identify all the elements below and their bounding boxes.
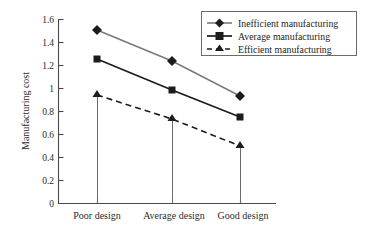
data-point-marker bbox=[169, 87, 176, 94]
chart-legend: Inefficient manufacturing Average manufa… bbox=[202, 12, 357, 56]
y-tick-label: 0.8 bbox=[42, 107, 54, 117]
y-axis-title: Manufacturing cost bbox=[20, 72, 31, 150]
x-tick-label: Good design bbox=[218, 210, 269, 221]
x-tick-label: Average design bbox=[143, 210, 205, 221]
data-point-marker bbox=[237, 114, 244, 121]
x-tick-label: Poor design bbox=[73, 210, 121, 221]
legend-label: Average manufacturing bbox=[238, 31, 330, 42]
chart-figure: 1.6 1.4 1.2 1 0.8 0.6 0.4 0.2 0 Manufact… bbox=[0, 0, 365, 236]
legend-label: Inefficient manufacturing bbox=[238, 18, 338, 29]
y-tick-label: 1 bbox=[49, 84, 54, 94]
y-tick-label: 0.6 bbox=[42, 130, 54, 140]
x-axis-tick-labels: Poor design Average design Good design bbox=[73, 210, 268, 221]
legend-label: Efficient manufacturing bbox=[238, 44, 332, 55]
y-tick-label: 0.4 bbox=[42, 153, 54, 163]
data-point-marker bbox=[94, 56, 101, 63]
y-tick-label: 1.2 bbox=[42, 61, 54, 71]
y-axis-tick-labels: 1.6 1.4 1.2 1 0.8 0.6 0.4 0.2 0 bbox=[42, 15, 54, 209]
y-tick-label: 1.4 bbox=[42, 38, 54, 48]
line-chart-svg: 1.6 1.4 1.2 1 0.8 0.6 0.4 0.2 0 Manufact… bbox=[0, 0, 365, 236]
y-tick-label: 0.2 bbox=[42, 176, 54, 186]
y-tick-label: 1.6 bbox=[42, 15, 54, 25]
y-tick-label: 0 bbox=[49, 199, 54, 209]
square-marker-icon bbox=[216, 32, 224, 40]
